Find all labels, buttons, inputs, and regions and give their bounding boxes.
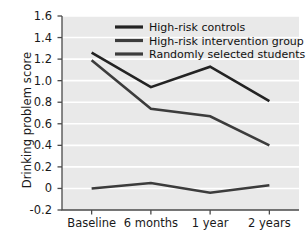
- chart-figure: Drinking problem score 1.61.41.21.00.80.…: [0, 0, 306, 244]
- x-tick-label-1: 6 months: [124, 216, 178, 230]
- y-tick-label: 1.4: [34, 31, 52, 45]
- legend-label-2: Randomly selected students: [149, 48, 305, 61]
- legend-label-0: High-risk controls: [149, 21, 245, 34]
- y-tick-label: 0.6: [34, 117, 52, 131]
- y-tick-label: 0.8: [34, 95, 52, 109]
- y-tick-label: 1.0: [34, 74, 52, 88]
- x-tick-label-3: 2 years: [248, 216, 291, 230]
- y-axis-tick-labels: 1.61.41.21.00.80.60.40.20-0.2: [0, 0, 52, 244]
- y-tick-label: 0: [45, 181, 52, 195]
- x-tick-label-2: 1 year: [192, 216, 229, 230]
- x-tick-label-0: Baseline: [67, 216, 116, 230]
- y-tick-label: 1.6: [34, 9, 52, 23]
- y-tick-label: 1.2: [34, 52, 52, 66]
- y-tick-label: 0.4: [34, 138, 52, 152]
- y-tick-label: 0.2: [34, 160, 52, 174]
- y-tick-label: -0.2: [30, 203, 52, 217]
- legend-label-1: High-risk intervention group: [149, 34, 304, 47]
